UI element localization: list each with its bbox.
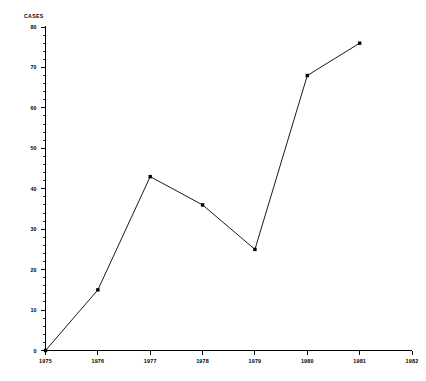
y-tick-label: 80: [31, 24, 37, 30]
data-point-marker-1978: [201, 203, 204, 206]
y-tick-label: 60: [31, 105, 37, 111]
x-tick-label: 1975: [39, 358, 52, 364]
x-tick-label: 1980: [301, 358, 314, 364]
x-tick-label: 1977: [144, 358, 157, 364]
data-point-marker-1980: [306, 74, 309, 77]
data-point-marker-1979: [253, 248, 256, 251]
y-axis-title: CASES: [24, 13, 44, 19]
y-tick-label: 50: [31, 145, 37, 151]
data-point-marker-1976: [96, 288, 99, 291]
chart-container: CASES 01020304050607080 1975197619771978…: [0, 0, 426, 381]
line-chart: CASES 01020304050607080 1975197619771978…: [0, 0, 426, 381]
x-tick-label: 1979: [249, 358, 262, 364]
x-tick-label: 1978: [196, 358, 209, 364]
y-tick-label: 10: [31, 307, 37, 313]
y-tick-label: 70: [31, 64, 37, 70]
chart-background: [0, 0, 426, 381]
y-tick-label: 30: [31, 226, 37, 232]
data-point-marker-1977: [149, 175, 152, 178]
y-tick-label: 20: [31, 267, 37, 273]
data-point-marker-1975: [44, 349, 47, 352]
y-tick-label: 0: [34, 348, 37, 354]
data-point-marker-1981: [358, 41, 361, 44]
x-tick-label: 1982: [406, 358, 419, 364]
y-tick-label: 40: [31, 186, 37, 192]
x-tick-label: 1981: [353, 358, 366, 364]
x-tick-label: 1976: [91, 358, 104, 364]
